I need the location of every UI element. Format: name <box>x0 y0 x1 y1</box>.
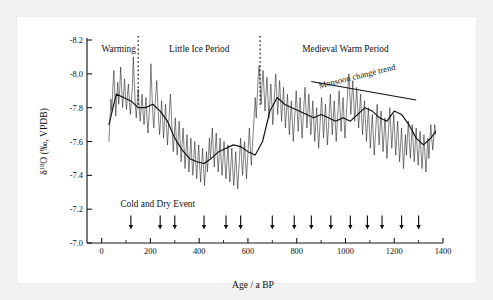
y-tick-label: -7.2 <box>70 205 83 214</box>
cold-dry-event-arrow <box>348 215 352 229</box>
x-tick-label: 600 <box>242 247 255 256</box>
y-tick-label: -8.0 <box>70 70 83 79</box>
annotation-medieval-warm-period: Medieval Warm Period <box>302 44 389 54</box>
cold-dry-event-arrow <box>309 215 313 229</box>
cold-dry-event-arrow <box>292 215 296 229</box>
y-tick-label: -7.6 <box>70 138 83 147</box>
x-tick-label: 1200 <box>386 247 403 256</box>
series-raw <box>109 57 436 189</box>
cold-dry-event-arrow <box>129 215 133 229</box>
x-tick-label: 0 <box>100 247 104 256</box>
annotation-little-ice-period: Little Ice Period <box>169 44 230 54</box>
x-axis-title: Age / a BP <box>232 279 274 290</box>
cold-dry-event-arrow <box>329 215 333 229</box>
cold-dry-event-arrow <box>224 215 228 229</box>
annotation-warming: Warming <box>102 44 137 54</box>
chart-data-series <box>109 57 436 189</box>
y-tick-label: -7.4 <box>70 171 84 180</box>
chart-annotations: WarmingLittle Ice PeriodMedieval Warm Pe… <box>102 44 398 210</box>
cold-dry-event-arrow <box>202 215 206 229</box>
figure-page: 0200400600800100012001400-8.2-8.0-7.8-7.… <box>0 0 493 300</box>
cold-dry-event-arrow <box>416 215 420 229</box>
x-tick-label: 1400 <box>435 247 452 256</box>
annotation-monsoon-change-trend: Monsoon change trend <box>318 61 398 90</box>
cold-dry-event-arrow <box>270 215 274 229</box>
cold-dry-event-arrow <box>380 215 384 229</box>
y-tick-label: -7.0 <box>70 239 83 248</box>
cold-dry-event-arrow <box>399 215 403 229</box>
y-tick-label: -8.2 <box>70 36 83 45</box>
x-tick-label: 800 <box>290 247 303 256</box>
x-tick-label: 200 <box>144 247 157 256</box>
y-tick-label: -7.8 <box>70 104 83 113</box>
annotation-cold-and-dry-event: Cold and Dry Event <box>120 199 195 209</box>
oxygen-isotope-timeseries-chart: 0200400600800100012001400-8.2-8.0-7.8-7.… <box>0 0 493 300</box>
cold-dry-event-arrow <box>365 215 369 229</box>
x-tick-label: 400 <box>193 247 206 256</box>
chart-figure: 0200400600800100012001400-8.2-8.0-7.8-7.… <box>0 0 493 300</box>
cold-dry-event-arrow <box>238 215 242 229</box>
cold-dry-event-arrows <box>129 215 421 229</box>
x-tick-label: 1000 <box>337 247 354 256</box>
cold-dry-event-arrow <box>158 215 162 229</box>
y-axis-title: δ18O (‰, VPDB) <box>38 108 51 175</box>
cold-dry-event-arrow <box>173 215 177 229</box>
